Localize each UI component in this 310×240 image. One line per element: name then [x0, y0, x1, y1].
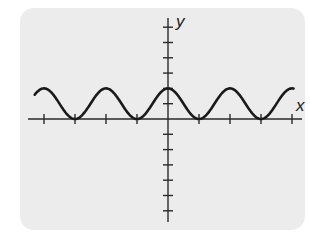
chart-plot: x y: [0, 0, 310, 240]
y-axis-label: y: [175, 12, 186, 31]
x-axis-label: x: [295, 96, 305, 115]
